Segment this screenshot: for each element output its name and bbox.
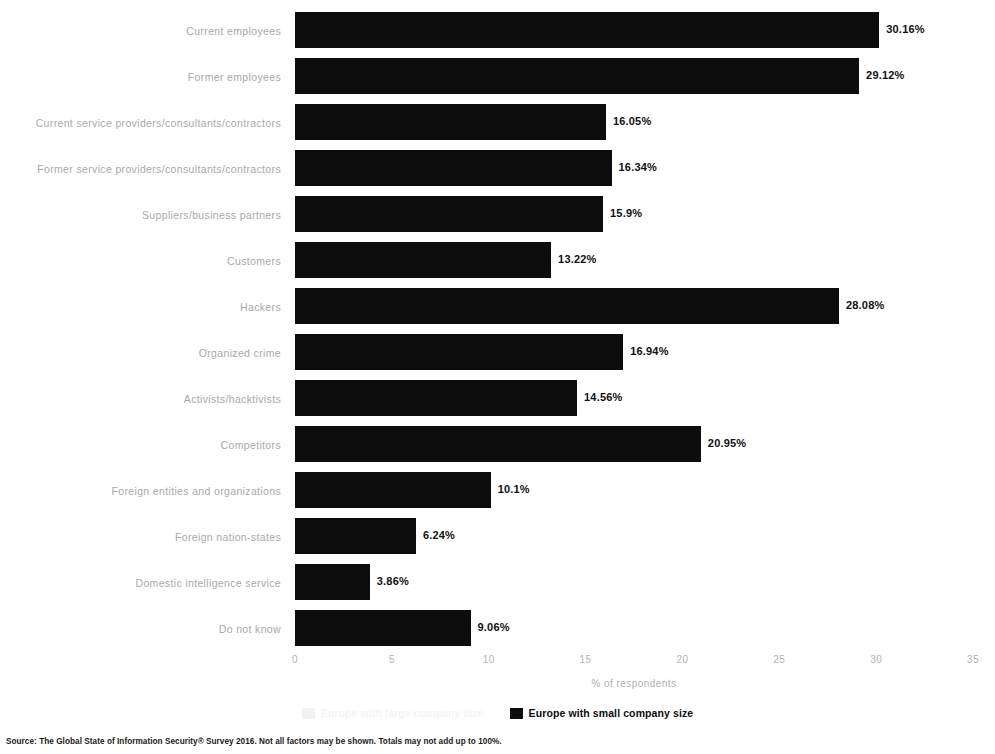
bar — [295, 518, 416, 554]
bar-value-label: 9.06% — [478, 621, 510, 633]
bar-row: 10.1% — [295, 468, 973, 514]
category-label-row: Domestic intelligence service — [0, 560, 288, 606]
x-axis-tick: 10 — [483, 654, 495, 665]
bar-value-label: 20.95% — [708, 437, 747, 449]
category-label: Competitors — [0, 439, 281, 451]
bar-row: 15.9% — [295, 192, 973, 238]
category-label-row: Do not know — [0, 606, 288, 652]
x-axis-tick: 25 — [773, 654, 785, 665]
bar-row: 20.95% — [295, 422, 973, 468]
bar-row: 16.34% — [295, 146, 973, 192]
category-label-row: Customers — [0, 238, 288, 284]
bar-row: 9.06% — [295, 606, 973, 652]
bar-row: 3.86% — [295, 560, 973, 606]
bar-row: 13.22% — [295, 238, 973, 284]
bar — [295, 242, 551, 278]
x-axis-tick: 30 — [870, 654, 882, 665]
bar-row: 14.56% — [295, 376, 973, 422]
plot-area: 30.16%29.12%16.05%16.34%15.9%13.22%28.08… — [295, 8, 973, 648]
bar — [295, 12, 879, 48]
category-label: Former employees — [0, 71, 281, 83]
bar — [295, 610, 471, 646]
legend-swatch-icon — [302, 708, 315, 719]
category-label: Domestic intelligence service — [0, 577, 281, 589]
x-axis-tick: 20 — [676, 654, 688, 665]
legend-item[interactable]: Europe with large company size — [302, 707, 484, 719]
category-label-row: Foreign entities and organizations — [0, 468, 288, 514]
chart-legend: Europe with large company sizeEurope wit… — [0, 703, 995, 723]
bar — [295, 472, 491, 508]
bar-value-label: 14.56% — [584, 391, 623, 403]
bar — [295, 288, 839, 324]
bar-row: 16.94% — [295, 330, 973, 376]
x-axis: 05101520253035 — [295, 648, 973, 672]
category-label: Foreign entities and organizations — [0, 485, 281, 497]
category-label-row: Former service providers/consultants/con… — [0, 146, 288, 192]
category-label: Customers — [0, 255, 281, 267]
bar-chart: Current employeesFormer employeesCurrent… — [0, 0, 995, 754]
category-label-row: Former employees — [0, 54, 288, 100]
bar-value-label: 6.24% — [423, 529, 455, 541]
legend-label: Europe with large company size — [321, 707, 484, 719]
category-label: Activists/hacktivists — [0, 393, 281, 405]
category-label: Former service providers/consultants/con… — [0, 163, 281, 175]
category-label: Do not know — [0, 623, 281, 635]
category-label-row: Current employees — [0, 8, 288, 54]
bar — [295, 380, 577, 416]
source-note: Source: The Global State of Information … — [6, 737, 502, 746]
bar-row: 30.16% — [295, 8, 973, 54]
bar-row: 28.08% — [295, 284, 973, 330]
bar-row: 16.05% — [295, 100, 973, 146]
bar-value-label: 10.1% — [498, 483, 530, 495]
legend-item[interactable]: Europe with small company size — [510, 707, 694, 719]
bar — [295, 150, 612, 186]
bar — [295, 564, 370, 600]
category-label: Current service providers/consultants/co… — [0, 117, 281, 129]
bar-value-label: 13.22% — [558, 253, 597, 265]
category-label-row: Activists/hacktivists — [0, 376, 288, 422]
bar-row: 6.24% — [295, 514, 973, 560]
x-axis-title: % of respondents — [295, 678, 973, 689]
x-axis-tick: 0 — [292, 654, 298, 665]
category-label-row: Organized crime — [0, 330, 288, 376]
bar-value-label: 16.94% — [630, 345, 669, 357]
bar — [295, 334, 623, 370]
bar — [295, 426, 701, 462]
bar — [295, 196, 603, 232]
bar-value-label: 29.12% — [866, 69, 905, 81]
bar-value-label: 15.9% — [610, 207, 642, 219]
bar-row: 29.12% — [295, 54, 973, 100]
bar-value-label: 28.08% — [846, 299, 885, 311]
category-axis: Current employeesFormer employeesCurrent… — [0, 8, 288, 648]
category-label: Organized crime — [0, 347, 281, 359]
category-label-row: Hackers — [0, 284, 288, 330]
category-label-row: Current service providers/consultants/co… — [0, 100, 288, 146]
x-axis-tick: 15 — [580, 654, 592, 665]
bar-value-label: 3.86% — [377, 575, 409, 587]
category-label: Hackers — [0, 301, 281, 313]
legend-label: Europe with small company size — [529, 707, 694, 719]
bar — [295, 104, 606, 140]
bar-value-label: 30.16% — [886, 23, 925, 35]
legend-swatch-icon — [510, 708, 523, 719]
bar-value-label: 16.05% — [613, 115, 652, 127]
category-label-row: Foreign nation-states — [0, 514, 288, 560]
x-axis-tick: 35 — [967, 654, 979, 665]
bar — [295, 58, 859, 94]
category-label-row: Suppliers/business partners — [0, 192, 288, 238]
bar-value-label: 16.34% — [619, 161, 658, 173]
category-label: Current employees — [0, 25, 281, 37]
x-axis-tick: 5 — [389, 654, 395, 665]
category-label-row: Competitors — [0, 422, 288, 468]
category-label: Suppliers/business partners — [0, 209, 281, 221]
category-label: Foreign nation-states — [0, 531, 281, 543]
